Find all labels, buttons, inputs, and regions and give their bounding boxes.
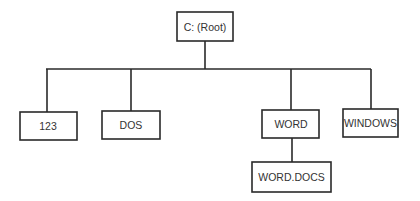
node-label-dos: DOS [120,119,143,131]
node-label-root: C: (Root) [184,21,227,33]
node-windows[interactable]: WINDOWS [343,109,398,137]
node-label-123: 123 [39,120,57,132]
connectors [46,41,371,162]
node-dos[interactable]: DOS [102,111,160,139]
directory-tree-diagram: C: (Root) 123 DOS WORD WINDOWS WORD.DOCS [0,0,420,201]
node-label-word: WORD [274,118,308,130]
node-label-windows: WINDOWS [344,117,397,129]
node-root[interactable]: C: (Root) [177,12,233,41]
node-123[interactable]: 123 [20,112,77,140]
node-label-worddocs: WORD.DOCS [258,171,325,183]
node-worddocs[interactable]: WORD.DOCS [252,162,331,192]
node-word[interactable]: WORD [262,110,319,138]
